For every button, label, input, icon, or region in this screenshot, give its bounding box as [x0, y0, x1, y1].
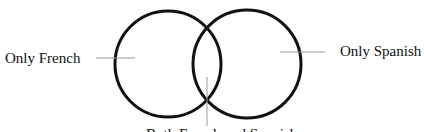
spanish-circle	[193, 10, 301, 118]
only-french-label: Only French	[5, 50, 80, 67]
french-circle	[115, 11, 221, 117]
both-label: Both French and Spanish	[146, 126, 297, 132]
only-spanish-label: Only Spanish	[340, 43, 421, 60]
